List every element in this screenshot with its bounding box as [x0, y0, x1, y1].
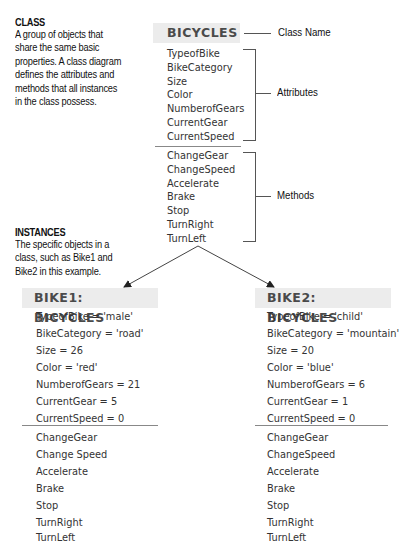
bike2-header: BIKE2: BICYCLES [255, 288, 391, 308]
bike1-divider [22, 425, 158, 426]
bike2-attribute: BikeCategory = 'mountain' [267, 325, 399, 342]
bike1-attribute: NumberofGears = 21 [36, 376, 143, 393]
bike2-attribute: Color = 'blue' [267, 359, 399, 376]
bike1-attribute: TypeofBike = 'male' [36, 308, 143, 325]
bike2-method: Stop [267, 497, 335, 514]
bike1-method: Stop [36, 497, 107, 514]
bike1-attribute: BikeCategory = 'road' [36, 325, 143, 342]
bike1-method: ChangeGear [36, 429, 107, 446]
bike2-attribute: TypeofBike = 'child' [267, 308, 399, 325]
bike2-method: ChangeSpeed [267, 446, 335, 463]
bike1-method: Change Speed [36, 446, 107, 463]
bike1-method: Brake [36, 480, 107, 497]
bike1-header: BIKE1: BICYCLES [22, 288, 158, 308]
bike2-method: TurnRight [267, 514, 335, 531]
bike2-method: Brake [267, 480, 335, 497]
bike1-method: Accelerate [36, 463, 107, 480]
bike2-method: Accelerate [267, 463, 335, 480]
arrow-to-bike2-icon [198, 246, 274, 287]
bike2-method: ChangeGear [267, 429, 335, 446]
bike2-attribute: CurrentGear = 1 [267, 393, 399, 410]
bike1-attribute: Size = 26 [36, 342, 143, 359]
bike1-method: TurnRight [36, 514, 107, 531]
bike2-attributes: TypeofBike = 'child' BikeCategory = 'mou… [267, 308, 399, 427]
bike2-attribute: NumberofGears = 6 [267, 376, 399, 393]
bike2-attribute: Size = 20 [267, 342, 399, 359]
arrow-to-bike1-icon [124, 246, 198, 287]
bike1-attribute: CurrentGear = 5 [36, 393, 143, 410]
bike1-methods: ChangeGear Change Speed Accelerate Brake… [36, 429, 107, 545]
bike2-divider [255, 425, 388, 426]
bike1-attributes: TypeofBike = 'male' BikeCategory = 'road… [36, 308, 143, 427]
bike2-methods: ChangeGear ChangeSpeed Accelerate Brake … [267, 429, 335, 545]
bike1-method: TurnLeft [36, 531, 107, 545]
bike1-attribute: Color = 'red' [36, 359, 143, 376]
bike2-method: TurnLeft [267, 531, 335, 545]
